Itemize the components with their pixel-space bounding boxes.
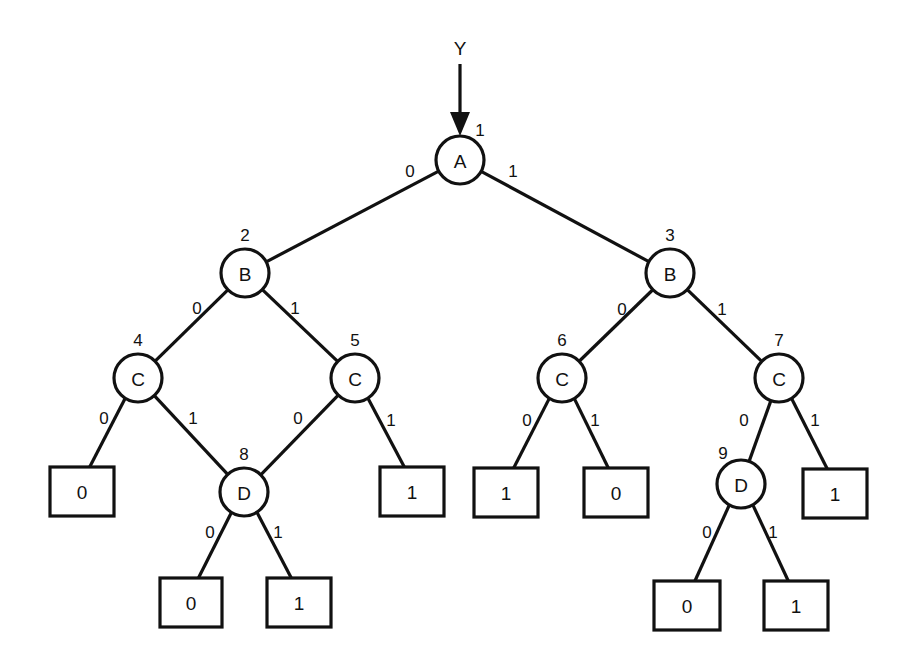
decision-node-2: B2	[221, 226, 269, 298]
edge-label: 0	[522, 411, 531, 430]
node-variable: D	[734, 475, 748, 496]
node-number: 8	[239, 445, 248, 464]
edge-label: 1	[590, 411, 599, 430]
edge-label: 1	[768, 523, 777, 542]
leaf-value: 1	[501, 483, 512, 504]
edge-7-L7_1	[792, 398, 828, 469]
node-variable: D	[237, 483, 251, 504]
edge-label: 1	[188, 409, 197, 428]
bdd-diagram: Y 010101010101010101 010110101 A1B2B3C4C…	[0, 0, 916, 665]
node-variable: B	[664, 264, 677, 285]
edge-4-8	[154, 396, 227, 475]
edge-label: 1	[386, 411, 395, 430]
input-arrow-icon	[450, 64, 470, 136]
edge-label: 0	[739, 411, 748, 430]
decision-node-8: D8	[220, 445, 268, 517]
node-number: 2	[240, 226, 249, 245]
input-label-y: Y	[454, 38, 467, 59]
terminal-leaf-1: 1	[803, 469, 867, 518]
terminal-leaf-1: 1	[380, 467, 444, 516]
leaf-value: 0	[682, 596, 693, 617]
edge-6-L6_1	[574, 399, 608, 468]
node-variable: B	[239, 264, 252, 285]
terminal-leaf-1: 1	[474, 468, 538, 517]
edge-2-5	[262, 290, 337, 362]
edge-label: 0	[405, 162, 414, 181]
node-number: 7	[774, 331, 783, 350]
terminal-leaf-0: 0	[654, 581, 720, 630]
node-variable: C	[348, 369, 362, 390]
decision-node-9: D9	[717, 444, 765, 509]
edge-7-9	[749, 401, 771, 462]
edge-3-6	[579, 290, 653, 362]
edge-label: 0	[99, 409, 108, 428]
node-number: 4	[133, 331, 142, 350]
edge-9-L9_1	[753, 505, 788, 581]
edge-9-L9_0	[695, 505, 729, 581]
edge-8-L8_0	[198, 512, 231, 578]
nodes-layer: A1B2B3C4C5C6C7D8D9	[114, 121, 803, 517]
edge-1-3	[481, 171, 649, 261]
edge-label: 1	[290, 299, 299, 318]
edge-6-L6_0	[514, 398, 550, 468]
leaf-value: 1	[294, 593, 305, 614]
node-number: 3	[665, 226, 674, 245]
leaf-value: 1	[830, 484, 841, 505]
node-variable: C	[131, 369, 145, 390]
edge-label: 0	[617, 300, 626, 319]
node-variable: C	[772, 369, 786, 390]
terminal-leaf-0: 0	[50, 467, 114, 516]
node-number: 1	[475, 121, 484, 140]
terminal-leaf-0: 0	[584, 468, 648, 517]
terminal-leaf-1: 1	[764, 581, 828, 630]
leaf-value: 0	[186, 593, 197, 614]
terminal-leaf-0: 0	[160, 578, 222, 627]
decision-node-7: C7	[755, 331, 803, 403]
edge-label: 1	[717, 300, 726, 319]
leaf-value: 1	[407, 482, 418, 503]
decision-node-6: C6	[538, 331, 586, 403]
edge-5-L5_1	[368, 398, 404, 467]
leaf-value: 0	[611, 483, 622, 504]
edge-label: 1	[810, 411, 819, 430]
node-number: 5	[350, 331, 359, 350]
node-variable: A	[454, 151, 467, 172]
edge-label: 0	[293, 409, 302, 428]
edge-label: 1	[508, 162, 517, 181]
edge-5-8	[261, 395, 339, 475]
decision-node-5: C5	[331, 331, 379, 403]
node-number: 6	[557, 331, 566, 350]
decision-node-4: C4	[114, 331, 162, 403]
node-variable: C	[555, 369, 569, 390]
node-number: 9	[718, 444, 727, 463]
decision-node-3: B3	[646, 226, 694, 298]
terminal-leaf-1: 1	[267, 578, 331, 627]
edge-label: 0	[192, 299, 201, 318]
leaf-value: 1	[791, 596, 802, 617]
edges-layer	[90, 171, 828, 581]
edge-label: 0	[702, 523, 711, 542]
leaf-value: 0	[77, 482, 88, 503]
edge-1-2	[266, 171, 439, 262]
edge-label: 1	[273, 523, 282, 542]
edge-label: 0	[205, 523, 214, 542]
edge-labels-layer: 010101010101010101	[99, 162, 819, 542]
